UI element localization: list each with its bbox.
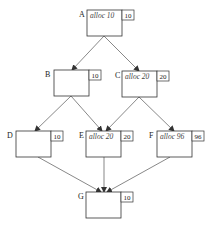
node-label: G: [78, 192, 84, 201]
edge-b-d: [35, 96, 71, 131]
node-box: [16, 131, 51, 157]
alloc-label: alloc 20: [125, 72, 150, 81]
node-e: E alloc 20 20: [79, 131, 133, 157]
size-value: 10: [92, 72, 100, 80]
node-label: B: [45, 70, 50, 79]
edge-d-g: [38, 157, 101, 192]
edge-c-e: [106, 97, 139, 131]
edges: [35, 36, 174, 192]
node-box: [86, 192, 121, 218]
edge-b-e: [71, 96, 102, 131]
size-value: 96: [195, 133, 203, 141]
node-label: E: [79, 131, 84, 140]
edge-f-g: [107, 157, 170, 192]
alloc-label: alloc 20: [89, 132, 114, 141]
node-box: [54, 70, 89, 96]
size-value: 10: [124, 194, 132, 202]
node-g: G 10: [78, 192, 133, 218]
alloc-label: alloc 96: [160, 132, 185, 141]
edge-c-f: [139, 97, 174, 131]
size-value: 20: [160, 73, 168, 81]
edge-a-b: [72, 36, 104, 70]
node-label: D: [7, 131, 13, 140]
edge-a-c: [104, 36, 139, 71]
node-a: A alloc 10 10: [79, 10, 134, 36]
node-d: D 10: [7, 131, 63, 157]
node-label: F: [149, 131, 154, 140]
size-value: 10: [125, 12, 133, 20]
alloc-label: alloc 10: [90, 11, 115, 20]
control-flow-graph: A alloc 10 10 B 10 C alloc 20 20 D 10 E …: [0, 0, 215, 228]
node-b: B 10: [45, 70, 101, 96]
node-label: A: [79, 10, 85, 19]
node-f: F alloc 96 96: [149, 131, 204, 157]
size-value: 10: [54, 133, 62, 141]
node-label: C: [115, 71, 120, 80]
node-c: C alloc 20 20: [115, 71, 169, 97]
size-value: 20: [124, 133, 132, 141]
